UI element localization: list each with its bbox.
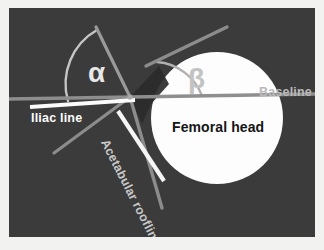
alpha-angle-label: α bbox=[88, 59, 105, 87]
femoral-head-label: Femoral head bbox=[172, 120, 264, 134]
diagram-canvas: α β Iliac line Femoral head Baseline Ace… bbox=[9, 8, 315, 237]
iliac-line-label: Iliac line bbox=[31, 112, 82, 125]
femoral-head-circle bbox=[151, 52, 283, 184]
hip-ultrasound-angle-figure: α β Iliac line Femoral head Baseline Ace… bbox=[0, 0, 324, 250]
baseline-label: Baseline bbox=[259, 86, 312, 99]
angle-vertex-point bbox=[127, 94, 132, 99]
beta-angle-label: β bbox=[188, 65, 205, 93]
